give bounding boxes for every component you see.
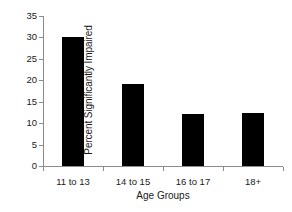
- bar: [122, 84, 144, 166]
- x-tick-label: 18+: [223, 176, 283, 188]
- x-axis-title: Age Groups: [43, 190, 283, 201]
- y-tick-mark: [39, 145, 43, 146]
- bar: [182, 114, 204, 166]
- x-tick-mark: [163, 167, 164, 171]
- y-tick-label: 25: [15, 53, 37, 64]
- y-tick-label: 10: [15, 117, 37, 128]
- x-tick-label: 11 to 13: [43, 176, 103, 188]
- y-tick-mark: [39, 80, 43, 81]
- x-tick-mark: [43, 167, 44, 171]
- plot-area: 0 5 10 15 20 25 30 35: [43, 16, 283, 166]
- bar: [242, 113, 264, 166]
- y-tick-mark: [39, 59, 43, 60]
- y-tick-mark: [39, 123, 43, 124]
- y-tick-label: 15: [15, 96, 37, 107]
- y-tick-mark: [39, 102, 43, 103]
- x-tick-mark: [223, 167, 224, 171]
- y-tick-label: 5: [15, 139, 37, 150]
- y-tick-mark: [39, 16, 43, 17]
- y-tick-label: 35: [15, 10, 37, 21]
- x-tick-mark: [103, 167, 104, 171]
- y-tick-label: 30: [15, 31, 37, 42]
- x-tick-mark: [283, 167, 284, 171]
- y-tick-label: 0: [15, 160, 37, 171]
- bar-chart: Percent Significantly Impaired 0 5 10 15…: [0, 0, 292, 212]
- y-axis-line: [43, 16, 44, 167]
- x-tick-label: 14 to 15: [103, 176, 163, 188]
- y-tick-mark: [39, 37, 43, 38]
- bar: [62, 37, 84, 166]
- y-tick-label: 20: [15, 74, 37, 85]
- x-tick-label: 16 to 17: [163, 176, 223, 188]
